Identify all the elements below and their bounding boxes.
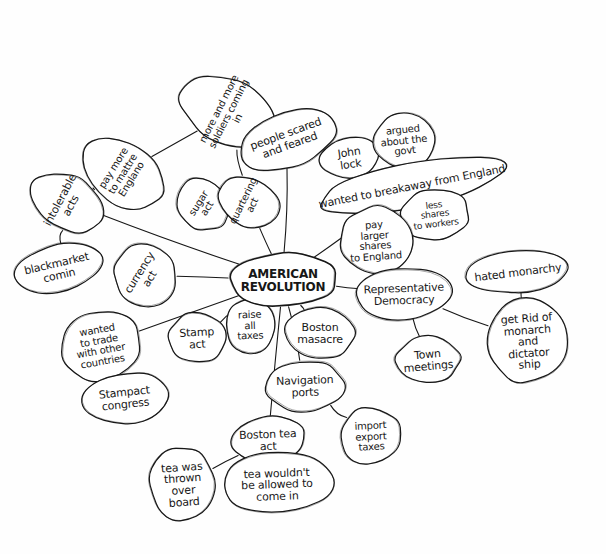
node-navigation-ports[interactable] xyxy=(264,359,346,413)
connector-american-revolution-to-people-scared xyxy=(284,169,287,254)
node-pay-more-to-england[interactable] xyxy=(91,125,155,221)
node-hated-monarchy[interactable] xyxy=(462,250,574,294)
node-intolerable-acts[interactable] xyxy=(37,162,95,242)
node-blackmarket-comin[interactable] xyxy=(11,244,105,294)
connector-american-revolution-to-currency-act xyxy=(177,276,228,278)
node-representative-democracy[interactable] xyxy=(354,267,454,321)
node-town-meetings[interactable] xyxy=(394,335,462,385)
node-tea-thrown-overboard[interactable] xyxy=(149,445,217,523)
node-stamp-act[interactable] xyxy=(167,311,227,365)
connector-pay-more-to-england-to-more-soldiers xyxy=(152,131,197,157)
node-currency-act[interactable] xyxy=(114,241,176,309)
node-stampact-congress[interactable] xyxy=(81,371,169,425)
node-american-revolution[interactable] xyxy=(227,252,339,308)
node-argued-about-govt[interactable] xyxy=(371,111,437,169)
node-boston-masacre[interactable] xyxy=(284,306,356,360)
node-pay-larger-shares[interactable] xyxy=(337,205,413,275)
node-import-export-taxes[interactable] xyxy=(338,406,404,466)
node-get-rid-of-monarch[interactable] xyxy=(484,298,572,384)
node-quartering-act[interactable] xyxy=(222,168,274,236)
node-tea-not-allowed[interactable] xyxy=(219,452,335,516)
mind-map-canvas: intolerable actspay more to mattre Engla… xyxy=(0,0,606,554)
